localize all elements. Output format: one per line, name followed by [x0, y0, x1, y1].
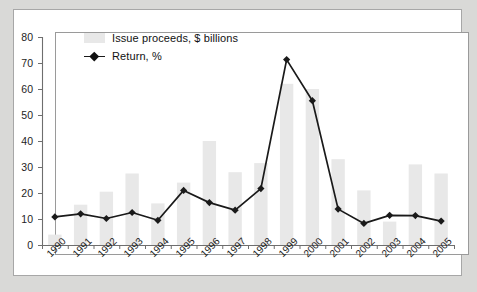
- y-tick-label-80: 80: [7, 32, 33, 42]
- legend-bar-swatch-icon: [84, 33, 105, 43]
- y-tick-label-30: 30: [7, 162, 33, 172]
- legend-line-diamond-icon: [84, 51, 105, 61]
- legend-item-return: Return, %: [84, 50, 162, 62]
- legend-label-return: Return, %: [112, 50, 162, 62]
- bar-1998: [254, 163, 267, 245]
- y-tick-label-20: 20: [7, 188, 33, 198]
- legend-label-issue-proceeds: Issue proceeds, $ billions: [112, 32, 238, 44]
- chart-page: 01020304050607080 1990199119921993199419…: [0, 0, 477, 292]
- bar-2005: [434, 174, 447, 246]
- return-marker-1990: [51, 213, 58, 220]
- return-marker-2003: [386, 212, 393, 219]
- y-tick-label-40: 40: [7, 136, 33, 146]
- bar-1996: [203, 141, 216, 245]
- y-tick-label-10: 10: [7, 214, 33, 224]
- bar-2004: [409, 164, 422, 245]
- legend-item-issue-proceeds: Issue proceeds, $ billions: [84, 32, 238, 44]
- bar-2001: [331, 159, 344, 245]
- y-tick-label-70: 70: [7, 58, 33, 68]
- y-tick-label-60: 60: [7, 84, 33, 94]
- bar-1999: [280, 84, 293, 245]
- y-tick-label-0: 0: [7, 240, 33, 250]
- bar-series: [48, 84, 448, 245]
- y-tick-label-50: 50: [7, 110, 33, 120]
- bar-2000: [306, 89, 319, 245]
